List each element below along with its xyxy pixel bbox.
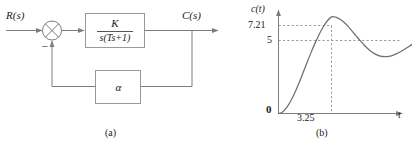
x-axis-label: t	[398, 110, 401, 120]
response-curve	[279, 17, 412, 114]
input-signal-label: R(s)	[6, 10, 24, 21]
transfer-function-denominator: s(Ts+1)	[100, 33, 131, 44]
x-tick-label-peak-time: 3.25	[297, 113, 315, 123]
figure-root: R(s) C(s) – K s(Ts+1) α (a)	[0, 0, 412, 150]
block-diagram-panel: R(s) C(s) – K s(Ts+1) α (a)	[0, 0, 240, 150]
panel-a-caption: (a)	[105, 128, 116, 138]
y-tick-label-steady-state: 5	[267, 35, 272, 45]
y-axis-label: c(t)	[251, 4, 265, 14]
origin-label: 0	[266, 104, 272, 115]
panel-b-caption: (b)	[316, 128, 328, 138]
forward-transfer-function: K s(Ts+1)	[86, 14, 144, 47]
summing-junction	[43, 21, 62, 40]
summing-junction-minus-sign: –	[42, 40, 48, 51]
step-response-panel: c(t) t 7.21 5 0 3.25 (b)	[240, 0, 412, 150]
transfer-function-numerator: K	[111, 18, 118, 30]
y-tick-label-peak: 7.21	[248, 20, 266, 30]
output-signal-label: C(s)	[182, 10, 201, 21]
feedback-gain-label: α	[96, 71, 141, 103]
